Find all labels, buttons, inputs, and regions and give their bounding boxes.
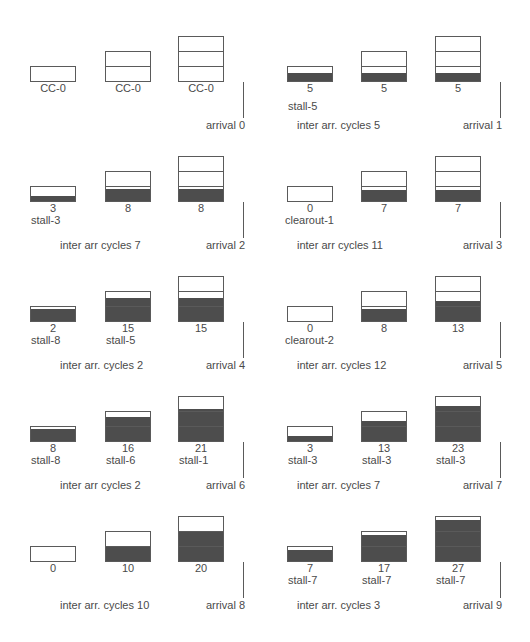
arrival-marker-line (500, 322, 501, 358)
segment-divider (179, 531, 223, 532)
occupied-fill (436, 73, 480, 81)
buffer-box-1 (287, 306, 333, 322)
segment-divider (436, 411, 480, 412)
box-value-label: CC-0 (30, 83, 76, 94)
box-value-label: 21 (178, 443, 224, 454)
segment-divider (436, 51, 480, 52)
occupied-fill (362, 190, 406, 201)
inter-arrival-label: inter arr cycles 11 (297, 240, 383, 251)
box-value-label: 5 (287, 83, 333, 94)
occupied-fill (436, 301, 480, 321)
occupied-fill (106, 189, 150, 201)
buffer-box-1 (287, 426, 333, 442)
panel-arrival-7: 3stall-313stall-323stall-3arrival 7inter… (265, 382, 530, 502)
occupied-fill (436, 520, 480, 561)
buffer-box-1 (30, 426, 76, 442)
occupied-fill (436, 190, 480, 201)
occupied-fill (288, 73, 332, 81)
occupied-fill (362, 309, 406, 321)
segment-divider (106, 546, 150, 547)
arrival-marker-line (500, 562, 501, 598)
panel-arrival-4: 2stall-815stall-515arrival 4inter arr. c… (0, 262, 265, 382)
segment-divider (179, 291, 223, 292)
buffer-box-3 (178, 36, 224, 82)
buffer-box-2 (361, 171, 407, 202)
buffer-box-1 (287, 66, 333, 82)
occupied-fill (288, 550, 332, 561)
box-value-label: 0 (30, 563, 76, 574)
buffer-box-2 (105, 291, 151, 322)
arrival-marker-line (243, 202, 244, 238)
box-status-label: stall-7 (436, 575, 465, 586)
segment-divider (106, 186, 150, 187)
box-value-label: 17 (361, 563, 407, 574)
arrival-label: arrival 8 (206, 600, 245, 611)
box-value-label: 10 (105, 563, 151, 574)
segment-divider (179, 51, 223, 52)
box-value-label: 8 (361, 323, 407, 334)
box-status-label: stall-7 (288, 575, 317, 586)
panel-arrival-3: 0clearout-177arrival 3inter arr cycles 1… (265, 142, 530, 262)
box-status-label: stall-6 (106, 455, 135, 466)
occupied-fill (362, 421, 406, 441)
buffer-box-3 (435, 156, 481, 202)
segment-divider (179, 426, 223, 427)
box-value-label: 20 (178, 563, 224, 574)
buffer-box-3 (435, 516, 481, 562)
arrival-label: arrival 4 (206, 360, 245, 371)
arrival-label: arrival 2 (206, 240, 245, 251)
segment-divider (362, 426, 406, 427)
occupied-fill (362, 535, 406, 561)
segment-divider (179, 411, 223, 412)
arrival-marker-line (243, 562, 244, 598)
buffer-box-1 (30, 306, 76, 322)
segment-divider (436, 66, 480, 67)
arrival-marker-line (243, 322, 244, 358)
box-status-label: clearout-1 (285, 215, 334, 226)
box-status-label: stall-5 (106, 335, 135, 346)
box-value-label: 0 (287, 203, 333, 214)
box-status-label: stall-1 (179, 455, 208, 466)
buffer-box-3 (178, 276, 224, 322)
box-status-label: stall-3 (288, 455, 317, 466)
segment-divider (362, 186, 406, 187)
box-status-label: stall-8 (31, 335, 60, 346)
buffer-box-3 (178, 516, 224, 562)
buffer-box-1 (30, 546, 76, 562)
box-value-label: 15 (105, 323, 151, 334)
box-value-label: 13 (361, 443, 407, 454)
occupied-fill (31, 429, 75, 441)
buffer-box-2 (105, 51, 151, 82)
buffer-box-2 (105, 531, 151, 562)
box-status-label: stall-3 (436, 455, 465, 466)
buffer-box-2 (361, 411, 407, 442)
panel-arrival-6: 8stall-816stall-621stall-1arrival 6inter… (0, 382, 265, 502)
segment-divider (179, 171, 223, 172)
buffer-box-3 (435, 276, 481, 322)
segment-divider (106, 306, 150, 307)
box-status-label: stall-5 (288, 101, 317, 112)
arrival-marker-line (500, 442, 501, 478)
arrival-marker-line (243, 82, 244, 118)
occupied-fill (31, 196, 75, 201)
buffer-box-1 (287, 186, 333, 202)
box-value-label: 8 (105, 203, 151, 214)
segment-divider (436, 426, 480, 427)
arrival-label: arrival 6 (206, 480, 245, 491)
box-status-label: stall-3 (362, 455, 391, 466)
box-value-label: 13 (435, 323, 481, 334)
occupied-fill (179, 189, 223, 201)
box-value-label: 0 (287, 323, 333, 334)
box-value-label: 2 (30, 323, 76, 334)
buffer-box-1 (30, 66, 76, 82)
arrival-marker-line (500, 82, 501, 118)
box-value-label: 15 (178, 323, 224, 334)
inter-arrival-label: inter arr. cycles 10 (60, 600, 149, 611)
box-value-label: 8 (178, 203, 224, 214)
occupied-fill (179, 298, 223, 321)
box-value-label: 7 (287, 563, 333, 574)
panel-arrival-0: CC-0CC-0CC-0arrival 0 (0, 22, 265, 142)
segment-divider (179, 306, 223, 307)
box-value-label: 7 (361, 203, 407, 214)
segment-divider (106, 426, 150, 427)
